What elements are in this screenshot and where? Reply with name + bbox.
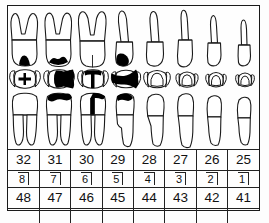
palmer-number: 6 [81,172,92,185]
dental-chart: 32 31 30 29 28 27 26 25 8 7 6 5 4 3 2 [0,0,269,223]
tooth-lingual-31[interactable] [42,91,76,149]
tooth-occlusal-30[interactable] [76,64,110,94]
figure-caption [9,213,259,223]
universal-number-cell[interactable]: 25 [228,150,259,171]
tooth-lingual-28[interactable] [140,91,170,149]
palmer-number-cell[interactable]: 1 [228,171,259,188]
tooth-buccal-32[interactable] [8,9,42,69]
numbering-row-universal: 32 31 30 29 28 27 26 25 [8,150,259,171]
chart-frame: 32 31 30 29 28 27 26 25 8 7 6 5 4 3 2 [7,5,260,211]
palmer-number: 4 [144,172,155,185]
palmer-number-cell[interactable]: 6 [71,171,102,188]
fdi-number: 47 [48,190,63,205]
fdi-number-cell[interactable]: 44 [134,188,165,209]
fdi-number: 48 [16,190,31,205]
tooth-lingual-27[interactable] [170,91,200,149]
fdi-number-cell[interactable]: 46 [71,188,102,209]
universal-number-cell[interactable]: 32 [8,150,39,171]
tooth-lingual-25[interactable] [229,91,259,149]
universal-number: 30 [79,152,94,167]
tooth-lingual-32[interactable] [8,91,42,149]
tooth-occlusal-26[interactable] [201,64,230,94]
fdi-number: 44 [142,190,157,205]
universal-number: 29 [110,152,125,167]
fdi-number-cell[interactable]: 43 [165,188,196,209]
universal-number-cell[interactable]: 26 [196,150,227,171]
universal-number: 31 [48,152,63,167]
palmer-number-cell[interactable]: 2 [196,171,227,188]
tooth-buccal-28[interactable] [140,9,170,69]
fdi-number-cell[interactable]: 47 [39,188,70,209]
palmer-number: 1 [238,172,249,185]
universal-number-cell[interactable]: 29 [102,150,133,171]
fdi-number: 43 [173,190,188,205]
universal-number: 27 [173,152,188,167]
tooth-diagram-area [8,6,259,149]
tooth-buccal-26[interactable] [200,9,230,69]
palmer-number: 8 [18,172,29,185]
palmer-number-cell[interactable]: 7 [39,171,70,188]
universal-number-cell[interactable]: 30 [71,150,102,171]
tooth-occlusal-32[interactable] [8,64,42,94]
fdi-number: 42 [204,190,219,205]
palmer-number-cell[interactable]: 5 [102,171,133,188]
fdi-number-cell[interactable]: 45 [102,188,133,209]
tooth-occlusal-28[interactable] [142,64,172,94]
universal-number: 32 [16,152,31,167]
tooth-lingual-26[interactable] [200,91,230,149]
universal-number: 26 [204,152,219,167]
palmer-number: 7 [50,172,61,185]
tooth-buccal-30[interactable] [76,9,110,69]
palmer-number: 2 [206,172,217,185]
universal-number-cell[interactable]: 27 [165,150,196,171]
palmer-number-cell[interactable]: 3 [165,171,196,188]
tooth-occlusal-29[interactable] [110,64,142,94]
palmer-number-cell[interactable]: 4 [134,171,165,188]
tooth-buccal-25[interactable] [229,9,259,69]
tooth-occlusal-31[interactable] [42,64,76,94]
tooth-row-lingual [8,91,259,149]
numbering-row-fdi: 48 47 46 45 44 43 42 41 [8,188,259,209]
tooth-numbering-table: 32 31 30 29 28 27 26 25 8 7 6 5 4 3 2 [8,149,259,223]
tooth-occlusal-25[interactable] [230,64,259,94]
universal-number-cell[interactable]: 31 [39,150,70,171]
tooth-row-occlusal [8,64,259,94]
numbering-row-palmer: 8 7 6 5 4 3 2 1 [8,171,259,188]
tooth-buccal-27[interactable] [170,9,200,69]
fdi-number: 41 [236,190,251,205]
palmer-number: 3 [175,172,186,185]
tooth-row-buccal [8,9,259,69]
tooth-buccal-31[interactable] [42,9,76,69]
universal-number: 25 [236,152,251,167]
tooth-buccal-29[interactable] [110,9,140,69]
palmer-number-cell[interactable]: 8 [8,171,39,188]
universal-number: 28 [142,152,157,167]
fdi-number: 45 [110,190,125,205]
universal-number-cell[interactable]: 28 [134,150,165,171]
tooth-lingual-30[interactable] [76,91,110,149]
fdi-number-cell[interactable]: 41 [228,188,259,209]
palmer-number: 5 [112,172,123,185]
tooth-lingual-29[interactable] [110,91,140,149]
tooth-occlusal-27[interactable] [172,64,201,94]
fdi-number-cell[interactable]: 48 [8,188,39,209]
fdi-number: 46 [79,190,94,205]
fdi-number-cell[interactable]: 42 [196,188,227,209]
